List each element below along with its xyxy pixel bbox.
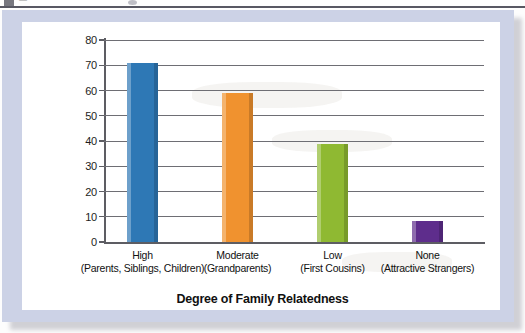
y-axis-title-line-2: Volunteering to Help <box>31 0 46 36</box>
bar-fill <box>222 93 253 242</box>
bar-fill <box>127 63 158 242</box>
bar-high[interactable] <box>127 63 158 242</box>
bar-shadow-edge <box>344 144 348 242</box>
figure-root: Percentage of Participants Volunteering … <box>0 0 525 333</box>
plot-area <box>104 40 484 242</box>
y-axis-tick-label: 0 <box>91 236 97 248</box>
y-axis-tick-label: 20 <box>85 186 97 198</box>
bar-highlight-edge <box>222 93 226 242</box>
category-name: High <box>132 249 153 261</box>
x-axis-category-label: None(Attractive Strangers) <box>348 249 508 275</box>
y-axis-tick-label: 50 <box>85 110 97 122</box>
y-axis-tick-label: 30 <box>85 160 97 172</box>
category-name: Low <box>323 249 342 261</box>
bar-highlight-edge <box>317 144 321 242</box>
bar-moderate[interactable] <box>222 93 253 242</box>
bar-low[interactable] <box>317 144 348 242</box>
bar-shadow-edge <box>154 63 158 242</box>
bar-none[interactable] <box>412 221 443 242</box>
y-axis-tick-label: 40 <box>85 135 97 147</box>
y-axis-tick-label: 60 <box>85 85 97 97</box>
bar-fill <box>317 144 348 242</box>
y-axis-tick-label: 10 <box>85 211 97 223</box>
bar-highlight-edge <box>127 63 131 242</box>
x-axis-line <box>104 242 485 244</box>
bar-highlight-edge <box>412 221 416 242</box>
bar-shadow-edge <box>249 93 253 242</box>
x-axis-title: Degree of Family Relatedness <box>0 292 525 306</box>
y-axis-tick-label: 80 <box>85 34 97 46</box>
bar-fill <box>412 221 443 242</box>
y-axis-title-line-1: Percentage of Participants <box>16 0 31 36</box>
category-sublabel: (Attractive Strangers) <box>348 262 508 275</box>
scan-artifact-dot <box>128 0 137 5</box>
bar-shadow-edge <box>439 221 443 242</box>
page-top-rule <box>0 6 525 8</box>
y-axis-title: Percentage of Participants Volunteering … <box>16 0 52 36</box>
y-axis-tick-label: 70 <box>85 59 97 71</box>
category-name: None <box>415 249 439 261</box>
